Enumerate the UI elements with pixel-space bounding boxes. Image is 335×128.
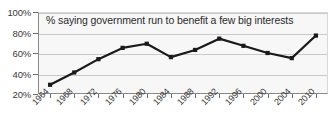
y-tick-label: 20%: [13, 89, 31, 100]
data-point-marker: [241, 44, 245, 48]
x-tick-mark: [243, 94, 244, 98]
x-axis: 1964196819721976198019841988199219962000…: [38, 94, 328, 128]
data-point-marker: [314, 33, 318, 37]
data-point-marker: [169, 55, 173, 59]
y-tick-label: 60%: [13, 48, 31, 59]
x-tick-mark: [316, 94, 317, 98]
data-point-marker: [290, 56, 294, 60]
data-point-marker: [145, 42, 149, 46]
y-tick-label: 40%: [13, 68, 31, 79]
data-series-line: [38, 12, 328, 94]
x-tick-mark: [268, 94, 269, 98]
y-axis: 100%80%60%40%20%: [0, 0, 38, 100]
x-tick-mark: [50, 94, 51, 98]
x-tick-mark: [147, 94, 148, 98]
y-tick-label: 100%: [8, 7, 32, 18]
x-tick-mark: [219, 94, 220, 98]
data-point-marker: [217, 37, 221, 41]
x-tick-mark: [98, 94, 99, 98]
x-tick-mark: [292, 94, 293, 98]
data-point-marker: [48, 83, 52, 87]
x-tick-mark: [171, 94, 172, 98]
x-tick-mark: [195, 94, 196, 98]
y-tick-label: 80%: [13, 27, 31, 38]
data-point-marker: [265, 51, 269, 55]
x-tick-mark: [74, 94, 75, 98]
x-tick-mark: [123, 94, 124, 98]
data-point-marker: [193, 48, 197, 52]
data-point-marker: [72, 70, 76, 74]
chart-container: 100%80%60%40%20% % saying government run…: [0, 0, 335, 128]
data-point-marker: [96, 57, 100, 61]
data-point-marker: [120, 46, 124, 50]
series-polyline: [50, 36, 316, 85]
